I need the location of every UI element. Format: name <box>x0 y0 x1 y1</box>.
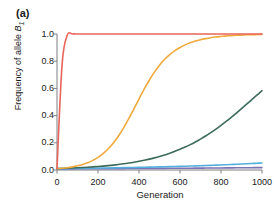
data-curve-red <box>57 33 262 169</box>
figure-panel: (a) Frequency of allele B1 Generation 0.… <box>0 0 274 209</box>
data-curve-orange <box>57 34 262 168</box>
chart-plot-area <box>0 0 274 209</box>
data-curve-green <box>57 91 262 169</box>
